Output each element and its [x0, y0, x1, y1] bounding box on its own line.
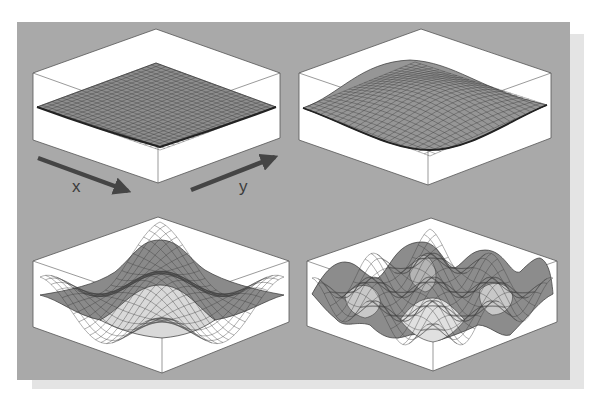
x-axis-label: x — [72, 177, 81, 196]
surface-plots-figure: x y — [0, 0, 599, 401]
surface-plot-top-left — [33, 29, 280, 183]
y-axis-label: y — [239, 177, 248, 196]
surface-plot-top-right — [299, 29, 551, 185]
surface-plot-bottom-left — [33, 217, 289, 373]
surface-plot-bottom-right — [307, 218, 557, 371]
